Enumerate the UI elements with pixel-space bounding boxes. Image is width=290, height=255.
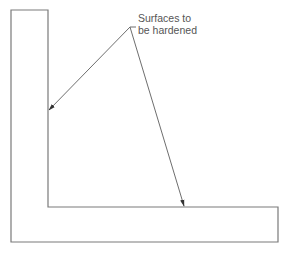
- l-section-diagram: [0, 0, 290, 255]
- annotation-line-2: be hardened: [138, 24, 197, 36]
- annotation-line-1: Surfaces to: [138, 12, 197, 24]
- l-section-outline: [11, 10, 278, 242]
- leader-arrow-horizontal-surface: [130, 27, 184, 206]
- annotation-label: Surfaces to be hardened: [138, 12, 197, 36]
- leader-arrow-vertical-surface: [49, 27, 130, 110]
